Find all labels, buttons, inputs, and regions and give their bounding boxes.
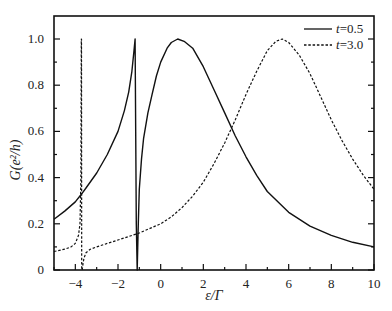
- x-axis-title: ε/Γ: [205, 288, 223, 303]
- x-tick-label: 6: [285, 276, 292, 291]
- y-tick-label: 0.6: [28, 123, 45, 138]
- x-tick-label: −4: [68, 276, 82, 291]
- legend: t=0.5t=3.0: [304, 21, 363, 52]
- plot-frame: [54, 16, 374, 270]
- x-axis-ticks: −4−20246810: [54, 264, 381, 291]
- x-tick-label: 8: [328, 276, 335, 291]
- legend-label: t=3.0: [336, 37, 363, 52]
- series-line-1: [54, 39, 374, 270]
- y-axis-title: G(e²/h): [8, 139, 24, 180]
- x-tick-label: 10: [368, 276, 381, 291]
- y-tick-label: 0.4: [28, 170, 45, 185]
- series-line-2: [54, 39, 374, 270]
- x-tick-label: 0: [157, 276, 164, 291]
- y-tick-label: 0: [38, 262, 45, 277]
- y-tick-label: 0.2: [28, 216, 44, 231]
- y-axis-ticks: 00.20.40.60.81.0: [28, 31, 374, 277]
- x-tick-label: −2: [111, 276, 125, 291]
- conductance-chart: −4−20246810 00.20.40.60.81.0 ε/Γ G(e²/h)…: [0, 0, 392, 311]
- legend-label: t=0.5: [336, 21, 363, 36]
- series-layer: [54, 39, 374, 270]
- y-tick-label: 0.8: [28, 77, 44, 92]
- x-tick-label: 4: [243, 276, 250, 291]
- y-tick-label: 1.0: [28, 31, 44, 46]
